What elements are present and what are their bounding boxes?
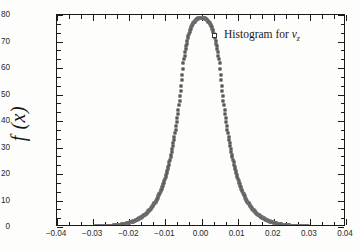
data-point-marker <box>226 128 229 131</box>
data-point-marker <box>225 125 228 128</box>
data-point-marker <box>174 132 177 135</box>
y-tick-label: 0 <box>0 222 10 231</box>
x-tick-label: 0.02 <box>265 229 281 238</box>
data-point-marker <box>223 108 226 111</box>
data-point-marker <box>217 54 220 57</box>
legend-marker-open-square-icon <box>212 33 217 38</box>
y-tick-label: 30 <box>0 142 10 151</box>
data-point-marker <box>181 73 184 76</box>
data-point-marker <box>177 108 180 111</box>
data-point-marker <box>169 156 172 159</box>
data-point-marker <box>221 89 224 92</box>
y-tick-label: 60 <box>0 63 10 72</box>
data-point-marker <box>185 42 188 45</box>
data-point-marker <box>185 45 188 48</box>
data-point-marker <box>180 84 183 87</box>
y-axis-title-text: f (x) <box>8 105 31 140</box>
data-point-marker <box>226 132 229 135</box>
x-tick-label: −0.02 <box>118 229 138 238</box>
data-point-marker <box>174 128 177 131</box>
data-point-marker <box>173 135 176 138</box>
y-tick-major <box>57 227 63 228</box>
x-tick-major <box>346 219 347 225</box>
y-tick-label: 20 <box>0 169 10 178</box>
data-point-marker <box>184 50 187 53</box>
data-point-marker <box>172 142 175 145</box>
data-point-marker <box>170 153 173 156</box>
data-point-marker <box>219 73 222 76</box>
data-point-marker <box>220 84 223 87</box>
data-point-marker <box>178 99 181 102</box>
x-tick-label: −0.04 <box>46 229 66 238</box>
data-point-marker <box>183 54 186 57</box>
data-point-marker <box>182 61 185 64</box>
data-point-marker <box>218 58 221 61</box>
data-point-marker <box>179 89 182 92</box>
data-point-marker <box>177 104 180 107</box>
x-tick-label: −0.03 <box>82 229 102 238</box>
data-point-marker <box>224 117 227 120</box>
data-point-marker <box>216 50 219 53</box>
x-tick-label: 0.00 <box>193 229 209 238</box>
y-tick-label: 50 <box>0 89 10 98</box>
data-point-marker <box>171 148 174 151</box>
data-point-marker <box>175 125 178 128</box>
x-tick-label: 0.04 <box>337 229 353 238</box>
data-series-canvas <box>57 15 344 225</box>
data-point-marker <box>172 138 175 141</box>
x-tick-major-top <box>346 15 347 21</box>
data-point-marker <box>223 104 226 107</box>
data-point-marker <box>180 79 183 82</box>
data-point-marker <box>222 99 225 102</box>
data-point-marker <box>219 67 222 70</box>
chart-page: f (x) 01020304050607080 −0.04−0.03−0.02−… <box>0 0 360 251</box>
data-point-marker <box>220 79 223 82</box>
legend-label: Histogram for vz <box>224 28 300 43</box>
legend-subscript: z <box>297 34 300 43</box>
data-point-marker <box>171 145 174 148</box>
data-point-marker <box>170 151 173 154</box>
y-tick-label: 80 <box>0 10 10 19</box>
x-tick-label: 0.03 <box>301 229 317 238</box>
legend: Histogram for vz <box>212 28 300 43</box>
y-tick-label: 10 <box>0 195 10 204</box>
x-tick-label: −0.01 <box>154 229 174 238</box>
data-point-marker <box>221 94 224 97</box>
data-point-marker <box>225 121 228 124</box>
data-point-marker <box>176 117 179 120</box>
data-point-marker <box>176 113 179 116</box>
data-point-marker <box>179 94 182 97</box>
data-point-marker <box>175 121 178 124</box>
plot-frame <box>56 14 345 226</box>
y-tick-label: 70 <box>0 36 10 45</box>
y-tick-label: 40 <box>0 116 10 125</box>
y-tick-major-right <box>338 227 344 228</box>
data-point-marker <box>181 67 184 70</box>
x-tick-label: 0.01 <box>229 229 245 238</box>
data-point-marker <box>224 113 227 116</box>
data-point-marker <box>184 47 187 50</box>
data-point-marker <box>182 58 185 61</box>
data-point-marker <box>218 61 221 64</box>
